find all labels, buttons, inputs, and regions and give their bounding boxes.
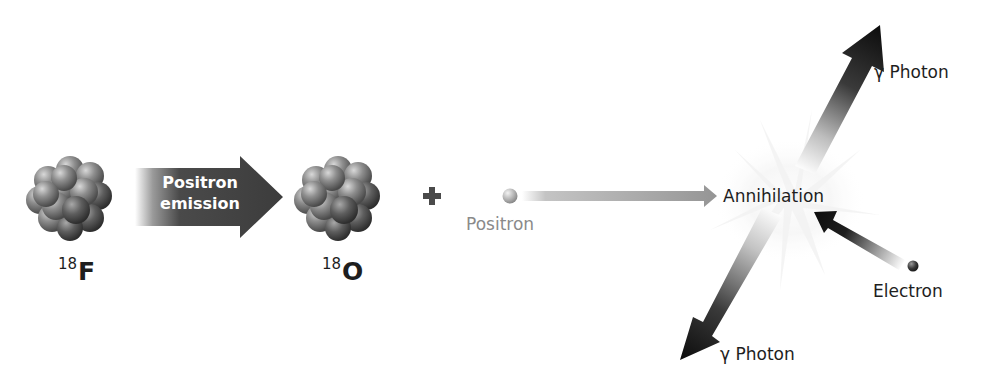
emission-label-line1: Positron: [150, 172, 250, 193]
positron-emission-label: Positron emission: [150, 172, 250, 214]
oxygen-nucleus-icon: [294, 156, 380, 241]
electron-particle-icon: [908, 261, 919, 272]
positron-particle-icon: [503, 189, 518, 204]
oxygen-label: 18O: [322, 257, 363, 286]
positron-label: Positron: [466, 214, 534, 234]
photon-up-arrow-icon: [795, 25, 884, 174]
emission-label-line2: emission: [150, 193, 250, 214]
positron-annihilation-diagram: Positron emission 18F 18O Positron Annih…: [0, 0, 989, 384]
fluorine-label: 18F: [58, 257, 95, 286]
photon-down-label: γ Photon: [720, 344, 795, 364]
annihilation-label: Annihilation: [723, 186, 824, 206]
photon-up-label: γ Photon: [874, 62, 949, 82]
plus-icon: [423, 187, 441, 205]
oxygen-symbol: O: [342, 257, 363, 286]
electron-label: Electron: [873, 281, 943, 301]
diagram-canvas: [0, 0, 989, 384]
fluorine-symbol: F: [78, 257, 95, 286]
fluorine-nucleus-icon: [26, 156, 112, 241]
positron-path-arrow-icon: [522, 185, 717, 207]
oxygen-mass-number: 18: [322, 255, 341, 273]
fluorine-mass-number: 18: [58, 255, 77, 273]
